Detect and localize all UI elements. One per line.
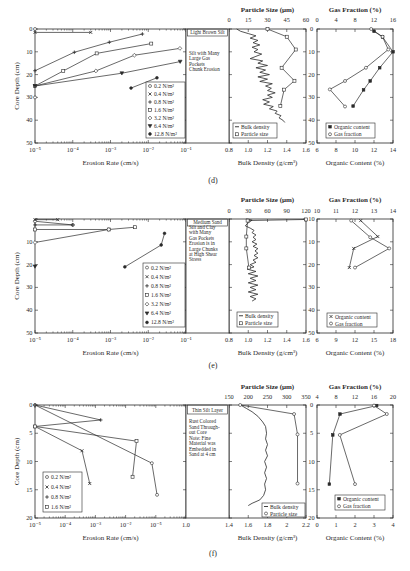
y-tick-label: 40 — [308, 116, 314, 123]
plot-e-mid: 0.81.01.21.41.60306090120Particle Size (… — [225, 196, 311, 357]
top-axis-title: Gas Fraction (%) — [329, 6, 382, 14]
top-x-tick-label: 30 — [245, 207, 251, 214]
legend: 0.2 N/m²0.4 N/m²0.8 N/m²1.6 N/m²3.2 N/m²… — [143, 263, 185, 327]
y-tick-label: 10 — [26, 48, 32, 55]
data-point-marker — [108, 40, 112, 44]
x-tick-label: 10⁻⁵ — [29, 521, 41, 528]
x-tick-label: 1.2 — [264, 336, 272, 343]
x-tick-label: 10⁻⁴ — [59, 521, 72, 528]
top-x-tick-label: 0 — [227, 207, 230, 214]
data-point-marker — [350, 219, 353, 222]
data-point-marker — [364, 66, 367, 69]
y-axis-title: Core Depth (cm) — [13, 62, 21, 110]
y-axis-title: Core Depth (cm) — [13, 437, 21, 485]
x-tick-label: 10⁻¹ — [180, 336, 192, 343]
y-tick-label: 5 — [29, 429, 32, 436]
x-tick-label: 10⁻⁵ — [150, 521, 162, 528]
data-point-marker — [134, 226, 137, 229]
legend-entry-label: Particle size — [241, 131, 269, 137]
legend-entry-label: Bulk density — [241, 124, 270, 130]
data-point-marker — [33, 241, 37, 245]
series-line — [35, 229, 109, 242]
y-tick-label: 0 — [310, 401, 313, 408]
x-tick-label: 15 — [371, 336, 377, 343]
x-tick-label: 10⁻¹ — [180, 146, 192, 153]
x-tick-label: 10⁻⁴ — [67, 336, 80, 343]
x-tick-label: 6 — [315, 146, 318, 153]
x-tick-label: 1.4 — [283, 336, 292, 343]
data-point-marker — [73, 50, 77, 54]
data-point-marker — [240, 322, 243, 325]
data-point-marker — [362, 89, 365, 92]
x-tick-label: 12 — [352, 336, 358, 343]
data-point-marker — [146, 266, 149, 269]
data-point-marker — [178, 46, 182, 50]
x-tick-label: 14 — [390, 146, 397, 153]
x-tick-label: 1.8 — [264, 521, 272, 528]
legend-entry-label: 6.4 N/m² — [151, 310, 171, 316]
top-x-tick-label: 12 — [371, 16, 377, 23]
data-point-marker — [280, 66, 283, 69]
data-point-marker — [245, 235, 248, 238]
description-line: Sand at 4 cm — [189, 451, 215, 457]
y-tick-label: 5 — [310, 429, 313, 436]
legend-entry-label: 0.8 N/m² — [151, 283, 171, 289]
description-box — [186, 29, 229, 143]
data-series — [33, 223, 74, 227]
legend-entry-label: 0.2 N/m² — [151, 265, 171, 271]
data-series — [348, 219, 380, 269]
description-line: Chunk Erosion — [189, 66, 220, 72]
data-point-marker — [352, 105, 355, 108]
legend-entry-label: 1.6 N/m² — [151, 292, 171, 298]
top-x-tick-label: 60 — [264, 207, 270, 214]
x-tick-label: 10⁻³ — [105, 146, 117, 153]
plot-f-mid: 1.41.61.822.2150200250300350Particle Siz… — [224, 383, 310, 542]
y-tick-label: 15 — [308, 486, 314, 493]
series-line — [35, 405, 101, 426]
data-point-marker — [146, 294, 149, 297]
y-tick-label: 40 — [308, 306, 314, 313]
x-tick-label: 1.0 — [244, 146, 252, 153]
data-point-marker — [62, 69, 65, 72]
data-point-marker — [131, 475, 134, 478]
top-x-tick-label: 90 — [284, 207, 290, 214]
data-point-marker — [388, 247, 391, 250]
top-x-tick-label: 8 — [353, 16, 356, 23]
data-point-marker — [293, 79, 296, 82]
top-axis-title: Gas Fraction (%) — [329, 196, 382, 204]
data-point-marker — [94, 69, 98, 73]
x-tick-label: 0.8 — [225, 336, 233, 343]
data-point-marker — [305, 218, 308, 221]
top-x-tick-label: 16 — [390, 16, 396, 23]
data-point-marker — [265, 512, 268, 515]
x-axis-title: Bulk Density (g/cm³) — [238, 349, 298, 357]
top-x-tick-label: 10 — [314, 207, 320, 214]
top-x-tick-label: 12 — [352, 207, 358, 214]
x-tick-label: 10⁻⁴ — [67, 146, 80, 153]
top-x-tick-label: 13 — [371, 207, 377, 214]
data-series — [34, 226, 137, 231]
top-axis-title: Particle Size (µm) — [241, 196, 295, 204]
series-line — [329, 406, 376, 485]
data-series — [245, 219, 258, 301]
x-tick-label: 0 — [315, 521, 318, 528]
y-tick-label: 10 — [308, 238, 314, 245]
data-series — [328, 404, 378, 485]
x-tick-label: 3 — [372, 521, 375, 528]
x-tick-label: 10⁻³ — [105, 336, 117, 343]
legend-entry-label: 12.8 N/m² — [154, 131, 177, 137]
data-series — [33, 403, 102, 428]
series-line — [349, 221, 378, 268]
legend-entry-label: 0.8 N/m² — [51, 494, 71, 500]
data-point-marker — [34, 28, 37, 31]
data-point-marker — [46, 506, 49, 509]
data-point-marker — [149, 109, 152, 112]
legend: Organic contentGas fraction — [326, 123, 375, 138]
y-tick-label: 10 — [26, 458, 32, 465]
x-axis-title: Erosion Rate (cm/s) — [83, 159, 140, 167]
data-point-marker — [296, 482, 299, 485]
top-x-tick-label: 0 — [227, 16, 230, 23]
x-axis-title: Bulk Density (g/cm³) — [238, 534, 298, 542]
plot-frame — [229, 405, 306, 518]
y-tick-label: 50 — [308, 139, 314, 146]
